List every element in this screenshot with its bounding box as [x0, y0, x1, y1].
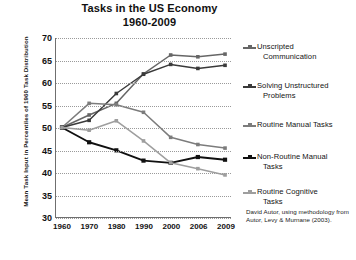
data-point-marker: [169, 161, 173, 165]
y-axis-tick-label: 50: [42, 123, 52, 133]
legend-label: UnscriptedCommunication: [256, 42, 316, 61]
y-axis-tick-label: 60: [42, 78, 52, 88]
y-axis-tick-label: 35: [42, 191, 52, 201]
x-axis-tick-label: 1970: [80, 222, 98, 231]
gridline: [56, 128, 231, 129]
legend-swatch-icon: [243, 153, 256, 162]
gridline: [56, 151, 231, 152]
data-point-marker: [141, 159, 145, 163]
data-point-marker: [169, 53, 173, 57]
chart-title-block: Tasks in the US Economy 1960-2009: [52, 2, 247, 29]
data-point-marker: [223, 146, 227, 150]
data-point-marker: [169, 136, 173, 140]
y-axis-tick-label: 45: [42, 146, 52, 156]
gridline: [56, 83, 231, 84]
y-axis-tick-label: 30: [42, 213, 52, 223]
chart-container: Tasks in the US Economy 1960-2009 Mean T…: [0, 0, 356, 260]
gridline: [56, 61, 231, 62]
data-point-marker: [223, 64, 227, 68]
legend-item[interactable]: Non-Routine ManualTasks: [243, 152, 328, 171]
legend-label: Routine CognitiveTasks: [256, 187, 318, 206]
legend-swatch-icon: [243, 121, 256, 130]
data-point-marker: [196, 167, 200, 171]
data-point-marker: [115, 92, 119, 96]
data-point-marker: [142, 72, 146, 76]
data-point-marker: [142, 139, 146, 143]
y-axis-label: Mean Task Input in Percentiles of 1960 T…: [22, 27, 29, 217]
x-axis-tick-label: 2009: [217, 222, 235, 231]
plot-area: 3035404550556065701960197019801990200020…: [55, 38, 231, 218]
source-note: David Autor, using methodology from Auto…: [246, 208, 354, 223]
legend-label: Routine Manual Tasks: [256, 120, 333, 130]
data-point-marker: [223, 52, 227, 56]
legend-swatch-icon: [243, 188, 256, 197]
legend-swatch-icon: [243, 43, 256, 52]
data-point-marker: [87, 140, 91, 144]
y-axis-tick-label: 65: [42, 56, 52, 66]
legend-swatch-icon: [243, 82, 256, 91]
data-point-marker: [196, 155, 200, 159]
gridline: [56, 106, 231, 107]
legend-item[interactable]: Routine CognitiveTasks: [243, 187, 318, 206]
x-axis-tick-label: 1960: [53, 222, 71, 231]
y-axis-tick-label: 70: [42, 33, 52, 43]
chart-subtitle: 1960-2009: [52, 16, 247, 30]
gridline: [56, 196, 231, 197]
data-point-marker: [87, 119, 91, 123]
page-title: Tasks in the US Economy: [52, 2, 247, 16]
y-axis-tick-label: 55: [42, 101, 52, 111]
data-point-marker: [196, 143, 200, 147]
gridline: [56, 38, 231, 39]
x-axis-tick-label: 2006: [190, 222, 208, 231]
legend-item[interactable]: Solving UnstructuredProblems: [243, 81, 329, 100]
legend-item[interactable]: UnscriptedCommunication: [243, 42, 316, 61]
data-point-marker: [169, 63, 173, 67]
data-point-marker: [115, 119, 119, 123]
legend-label: Non-Routine ManualTasks: [256, 152, 328, 171]
gridline: [56, 218, 231, 219]
series-line: [62, 54, 225, 127]
data-point-marker: [142, 110, 146, 114]
gridline: [56, 173, 231, 174]
y-axis-tick-label: 40: [42, 168, 52, 178]
data-point-marker: [87, 113, 91, 117]
x-axis-tick-label: 1990: [135, 222, 153, 231]
x-axis-tick-label: 1980: [108, 222, 126, 231]
legend-label: Solving UnstructuredProblems: [256, 81, 329, 100]
x-axis-tick-label: 2000: [162, 222, 180, 231]
legend-item[interactable]: Routine Manual Tasks: [243, 120, 333, 130]
data-point-marker: [223, 158, 227, 162]
data-point-marker: [196, 67, 200, 71]
data-point-marker: [196, 55, 200, 59]
